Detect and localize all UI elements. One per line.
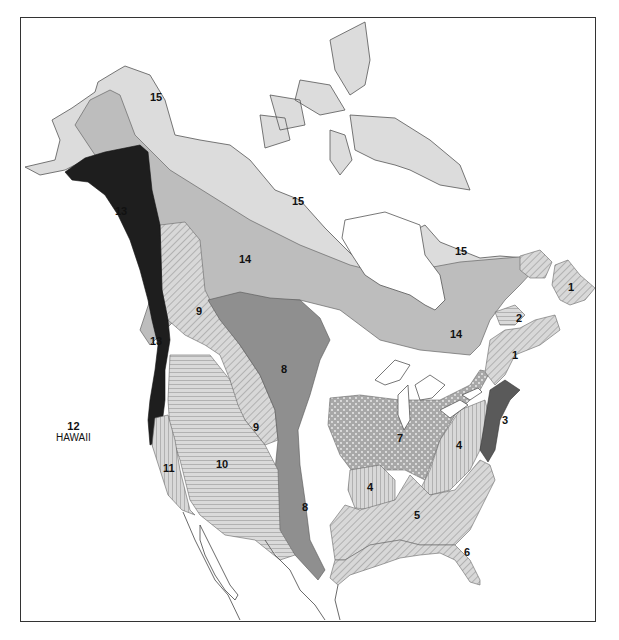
- zone-label-9-bc: 9: [196, 305, 202, 317]
- zone-label-5: 5: [414, 509, 420, 521]
- zone-label-9-rockies: 9: [253, 421, 259, 433]
- zone-label-15-quebec: 15: [455, 245, 467, 257]
- arctic-islands: [260, 22, 470, 190]
- zone-label-10: 10: [216, 458, 228, 470]
- zone-label-13-wa: 13: [150, 335, 162, 347]
- hawaii-name: HAWAII: [56, 432, 91, 443]
- zone-label-14-east: 14: [450, 328, 463, 340]
- zone-label-4-app: 4: [456, 439, 463, 451]
- zone-label-14-west: 14: [239, 253, 252, 265]
- zone-label-2: 2: [516, 312, 522, 324]
- zone-label-15-north: 15: [292, 195, 304, 207]
- zone-1-labrador-region: [520, 250, 552, 278]
- zone-1-maritimes-region: [485, 315, 560, 385]
- zone-label-4-ky: 4: [367, 481, 374, 493]
- zone-map: 15 15 15 13 13 14 14 9 9 8 8 10 11 7 4 4…: [0, 0, 619, 640]
- zone-label-11: 11: [163, 462, 175, 474]
- zone-label-1-maritimes: 1: [512, 349, 518, 361]
- zone-label-7: 7: [397, 432, 403, 444]
- zone-3-region: [480, 380, 520, 462]
- hawaii-zone-number: 12: [56, 421, 91, 432]
- hawaii-label: 12 HAWAII: [56, 421, 91, 443]
- zone-label-8-plains: 8: [281, 363, 287, 375]
- zone-label-3: 3: [502, 414, 508, 426]
- zone-label-8-texas: 8: [302, 501, 308, 513]
- zone-label-13-alaska: 13: [115, 205, 127, 217]
- zone-label-6: 6: [464, 546, 470, 558]
- zone-label-1-newfoundland: 1: [568, 281, 574, 293]
- zone-label-15-alaska: 15: [150, 91, 162, 103]
